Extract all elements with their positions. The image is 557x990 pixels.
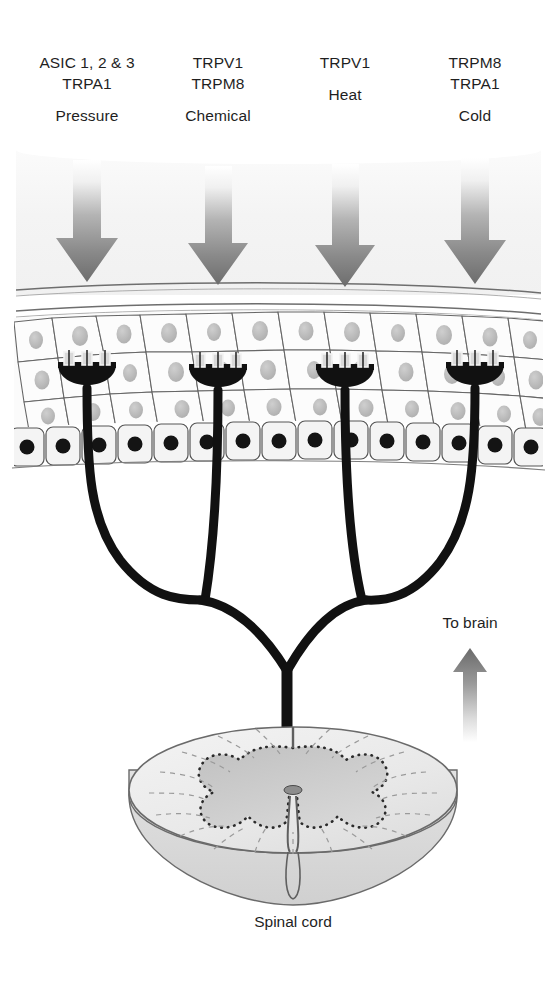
stimulus-arrow-chemical <box>188 166 248 285</box>
figure-canvas: ASIC 1, 2 & 3 TRPA1 Pressure TRPV1 TRPM8… <box>0 0 557 990</box>
to-brain-label: To brain <box>400 614 540 632</box>
diagram-artwork <box>0 0 557 990</box>
stimulus-arrows <box>56 158 506 287</box>
spinal-cord-label: Spinal cord <box>203 913 383 931</box>
stimulus-arrow-pressure <box>56 160 118 282</box>
stimulus-arrow-heat <box>315 164 375 287</box>
central-canal <box>284 786 302 795</box>
spinal-cord <box>129 727 457 905</box>
to-brain-arrow <box>453 648 487 742</box>
stimulus-arrow-cold <box>444 158 506 284</box>
